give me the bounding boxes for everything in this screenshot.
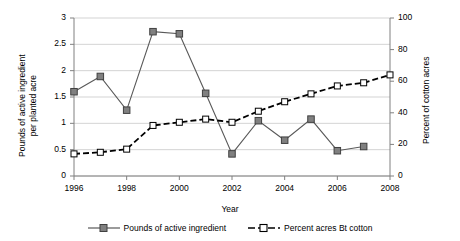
x-axis-tick-label: 1996: [54, 183, 94, 193]
data-point-marker: [308, 91, 314, 97]
chart-legend: Pounds of active ingredient Percent acre…: [0, 222, 460, 234]
legend-entry-pounds: Pounds of active ingredient: [88, 222, 227, 234]
x-axis-tick-label: 2006: [317, 183, 357, 193]
x-axis-tick-label: 2002: [212, 183, 252, 193]
y-axis-left-tick-label: 0.5: [40, 144, 66, 154]
data-point-marker: [255, 117, 262, 124]
legend-label-bt-cotton: Percent acres Bt cotton: [284, 223, 372, 233]
data-point-marker: [334, 83, 340, 89]
legend-label-pounds: Pounds of active ingredient: [124, 223, 227, 233]
chart-container: Pounds of active ingredient per planted …: [0, 0, 460, 241]
y-axis-right-tick-label: 20: [398, 138, 424, 148]
y-axis-left-tick-label: 1: [40, 117, 66, 127]
y-axis-left-tick-label: 3: [40, 12, 66, 22]
x-axis-tick-label: 2004: [265, 183, 305, 193]
y-axis-right-tick-label: 40: [398, 107, 424, 117]
data-point-marker: [123, 107, 130, 114]
y-axis-right-tick-label: 100: [398, 12, 424, 22]
data-point-marker: [71, 151, 77, 157]
y-axis-left-tick-label: 1.5: [40, 91, 66, 101]
y-axis-right-tick-label: 60: [398, 75, 424, 85]
y-axis-left-tick-label: 0: [40, 170, 66, 180]
data-point-marker: [334, 147, 341, 154]
data-point-marker: [308, 116, 315, 123]
y-axis-right-tick-label: 80: [398, 44, 424, 54]
legend-swatch-bt-cotton-icon: [248, 222, 280, 234]
data-point-marker: [282, 99, 288, 105]
data-point-marker: [361, 80, 367, 86]
data-point-marker: [281, 137, 288, 144]
y-axis-left-tick-label: 2.5: [40, 38, 66, 48]
data-point-marker: [229, 151, 236, 158]
data-point-marker: [176, 119, 182, 125]
data-point-marker: [203, 116, 209, 122]
data-point-marker: [202, 90, 209, 97]
y-axis-right-tick-label: 0: [398, 170, 424, 180]
y-axis-left-title: Pounds of active ingredient per planted …: [17, 31, 38, 181]
data-point-marker: [360, 143, 367, 150]
data-point-marker: [97, 149, 103, 155]
data-point-marker: [255, 108, 261, 114]
legend-entry-bt-cotton: Percent acres Bt cotton: [248, 222, 372, 234]
x-axis-tick-label: 1998: [107, 183, 147, 193]
x-axis-tick-label: 2000: [159, 183, 199, 193]
data-point-marker: [150, 28, 157, 35]
x-axis-title: Year: [160, 204, 300, 215]
legend-swatch-pounds-icon: [88, 222, 120, 234]
data-point-marker: [229, 119, 235, 125]
y-axis-left-tick-label: 2: [40, 65, 66, 75]
x-axis-tick-label: 2008: [370, 183, 410, 193]
data-point-marker: [176, 31, 183, 38]
data-series-layer: [71, 28, 393, 157]
series-line-1: [74, 75, 390, 154]
data-point-marker: [387, 72, 393, 78]
data-point-marker: [150, 122, 156, 128]
data-point-marker: [97, 73, 104, 80]
series-line-0: [74, 32, 364, 154]
data-point-marker: [124, 146, 130, 152]
data-point-marker: [71, 88, 78, 95]
